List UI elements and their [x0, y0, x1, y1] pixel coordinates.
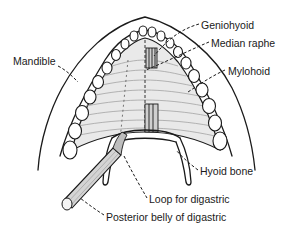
label-geniohyoid: Geniohyoid — [201, 19, 254, 31]
geniohyoid-lower — [145, 104, 158, 132]
label-hyoid-bone: Hyoid bone — [200, 165, 253, 177]
label-posterior-belly-of-digastric: Posterior belly of digastric — [106, 211, 226, 223]
anatomy-diagram — [0, 0, 290, 233]
label-mylohoid: Mylohoid — [228, 65, 270, 77]
label-mandible: Mandible — [13, 55, 56, 67]
leader-loop-for-digastric — [124, 156, 147, 198]
label-median-raphe: Median raphe — [211, 37, 275, 49]
label-loop-for-digastric: Loop for digastric — [149, 193, 230, 205]
geniohyoid-muscle — [146, 48, 157, 68]
leader-posterior-belly — [80, 198, 104, 215]
leader-hyoid-bone — [176, 150, 198, 170]
